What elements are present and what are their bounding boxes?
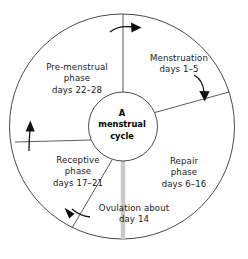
center-line-1: A xyxy=(88,108,156,119)
ovulation-day: day 14 xyxy=(82,214,186,225)
phase-label-receptive: Receptive phase days 17–21 xyxy=(36,155,120,189)
menstruation-title: Menstruation xyxy=(136,53,222,64)
arrow-left-clockwise xyxy=(26,121,35,151)
phase-label-menstruation: Menstruation days 1–5 xyxy=(136,53,222,76)
ovulation-title: Ovulation about xyxy=(82,203,186,214)
phase-label-ovulation: Ovulation about day 14 xyxy=(82,203,186,226)
center-line-2: menstrual xyxy=(88,119,156,130)
phase-label-repair: Repair phase days 6–16 xyxy=(143,156,225,190)
center-line-3: cycle xyxy=(88,131,156,142)
repair-subtitle: phase xyxy=(143,167,225,178)
phase-label-premenstrual: Pre-menstrual phase days 22–28 xyxy=(30,62,124,96)
premenstrual-days: days 22–28 xyxy=(30,85,124,96)
receptive-title: Receptive xyxy=(36,155,120,166)
spoke-day-5 xyxy=(153,92,229,113)
menstrual-cycle-diagram: Menstruation days 1–5 Pre-menstrual phas… xyxy=(0,0,248,259)
spoke-day-21 xyxy=(15,140,92,142)
menstruation-days: days 1–5 xyxy=(136,64,222,75)
repair-title: Repair xyxy=(143,156,225,167)
repair-days: days 6–16 xyxy=(143,179,225,190)
arrow-top-clockwise xyxy=(110,22,142,32)
premenstrual-title: Pre-menstrual xyxy=(30,62,124,73)
premenstrual-subtitle: phase xyxy=(30,73,124,84)
receptive-subtitle: phase xyxy=(36,166,120,177)
center-hub-label: A menstrual cycle xyxy=(88,108,156,142)
receptive-days: days 17–21 xyxy=(36,178,120,189)
